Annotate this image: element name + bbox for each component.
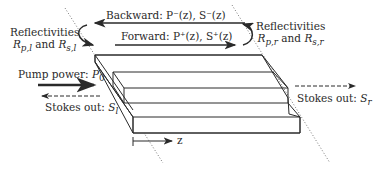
z-axis-label: z	[177, 134, 183, 146]
stokes-right-label: Stokes out: Sr	[297, 92, 372, 108]
left-reflectivity-label: Reflectivities Rp,l and Rs,l	[10, 26, 79, 54]
waveguide-slab	[95, 55, 300, 133]
right-reflectivity-label: Reflectivities Rp,r and Rs,r	[256, 20, 325, 48]
stokes-left-label: Stokes out: Sl	[45, 101, 118, 117]
pump-power-label: Pump power: P0	[18, 68, 105, 84]
forward-label: Forward: P⁺(z), S⁺(z)	[121, 30, 232, 42]
left-reflection-arrow	[79, 25, 93, 45]
right-reflection-arrow	[243, 24, 252, 45]
backward-label: Backward: P⁻(z), S⁻(z)	[106, 9, 226, 21]
